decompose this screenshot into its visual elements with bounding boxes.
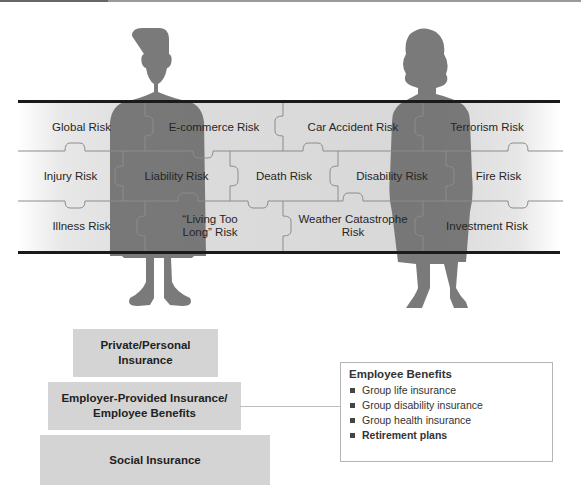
risk-label: “Living Too Long” Risk: [170, 213, 250, 239]
pyramid-tier-line: Social Insurance: [109, 453, 200, 468]
employee-benefits-title: Employee Benefits: [349, 368, 544, 380]
risk-cell-living-too-long: “Living Too Long” Risk: [155, 201, 265, 251]
risk-label: Global Risk: [52, 121, 111, 134]
connector-line: [240, 406, 340, 407]
risk-cell-injury: Injury Risk: [18, 151, 123, 201]
risk-label: Fire Risk: [476, 170, 521, 183]
pyramid-tier-social-insurance: Social Insurance: [40, 435, 270, 485]
risk-cell-investment: Investment Risk: [423, 201, 551, 251]
risk-cell-death: Death Risk: [230, 151, 338, 201]
bullet-square-icon: [350, 388, 355, 393]
benefit-item: Group life insurance: [349, 383, 544, 398]
risk-cell-liability: Liability Risk: [123, 151, 230, 201]
risk-cell-weather-catastrophe: Weather Catastrophe Risk: [283, 201, 423, 251]
risk-label: Car Accident Risk: [308, 121, 399, 134]
employee-benefits-box: Employee Benefits Group life insurance G…: [340, 362, 553, 462]
risk-label: Investment Risk: [446, 220, 528, 233]
risk-label: Disability Risk: [356, 170, 428, 183]
risk-label: Death Risk: [256, 170, 312, 183]
pyramid-tier-line: Private/Personal: [100, 338, 190, 353]
benefit-label: Group life insurance: [362, 383, 456, 398]
bullet-square-icon: [350, 403, 355, 408]
risk-label: Weather Catastrophe Risk: [298, 213, 408, 239]
risk-cell-disability: Disability Risk: [338, 151, 446, 201]
benefit-label: Retirement plans: [362, 428, 447, 443]
bullet-square-icon: [350, 418, 355, 423]
benefit-item: Group health insurance: [349, 413, 544, 428]
pyramid-tier-private-personal: Private/Personal Insurance: [73, 329, 218, 377]
risk-cell-fire: Fire Risk: [446, 151, 551, 201]
pyramid-tier-line: Employee Benefits: [61, 406, 227, 421]
page-top-rule-accent: [0, 0, 108, 2]
risk-label: E-commerce Risk: [169, 121, 260, 134]
benefit-label: Group health insurance: [362, 413, 471, 428]
benefit-item: Group disability insurance: [349, 398, 544, 413]
risk-label: Injury Risk: [44, 170, 98, 183]
risk-cell-car-accident: Car Accident Risk: [283, 103, 423, 151]
risk-label: Liability Risk: [145, 170, 209, 183]
risk-cell-e-commerce: E-commerce Risk: [145, 103, 283, 151]
risk-cell-terrorism: Terrorism Risk: [423, 103, 551, 151]
bullet-square-icon: [350, 433, 355, 438]
risk-label: Terrorism Risk: [450, 121, 523, 134]
employee-benefits-list: Group life insurance Group disability in…: [349, 383, 544, 443]
benefit-label: Group disability insurance: [362, 398, 483, 413]
risk-label: Illness Risk: [52, 220, 110, 233]
benefit-item: Retirement plans: [349, 428, 544, 443]
risk-cell-global: Global Risk: [18, 103, 145, 151]
risk-cell-illness: Illness Risk: [18, 201, 145, 251]
pyramid-tier-line: Employer-Provided Insurance/: [61, 391, 227, 406]
pyramid-tier-line: Insurance: [100, 353, 190, 368]
pyramid-tier-employer-provided: Employer-Provided Insurance/ Employee Be…: [48, 382, 241, 430]
